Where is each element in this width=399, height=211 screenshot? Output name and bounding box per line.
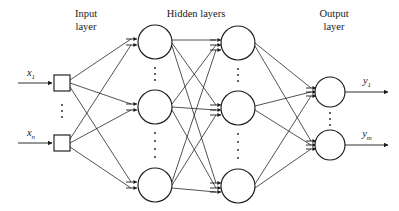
output-layer-title-line2: layer [324, 21, 345, 32]
hidden2-node-2[interactable] [221, 91, 255, 125]
hidden2-ellipsis-lower [237, 133, 239, 159]
output-layer-title-line1: Output [319, 8, 348, 19]
output-node-m[interactable] [315, 130, 345, 160]
hidden1-ellipsis-lower [154, 132, 156, 158]
hidden1-node-3[interactable] [138, 168, 172, 202]
arrowheads-output [306, 88, 316, 149]
input-layer-ellipsis [61, 104, 63, 118]
output-layer-ellipsis [329, 112, 331, 126]
input-layer-title-line1: Input [75, 8, 97, 19]
output-label-ym: ym [361, 128, 372, 142]
input-node-n[interactable] [54, 135, 70, 151]
hidden1-node-1[interactable] [138, 25, 172, 59]
output-label-y1: y1 [362, 75, 371, 89]
input-label-x1: x1 [26, 67, 35, 81]
arrowheads-hidden1 [126, 39, 137, 188]
output-node-1[interactable] [315, 77, 345, 107]
hidden1-ellipsis-upper [154, 67, 156, 81]
network-canvas: Input layer Hidden layers Output layer x… [0, 0, 399, 211]
hidden2-node-1[interactable] [221, 26, 255, 60]
edges-hidden2-to-output [255, 43, 311, 188]
hidden1-node-2[interactable] [138, 90, 172, 124]
edges-input-to-hidden1 [70, 39, 131, 188]
input-node-1[interactable] [54, 75, 70, 91]
edges-hidden1-to-hidden2 [172, 40, 216, 192]
hidden2-node-3[interactable] [221, 169, 255, 203]
neural-network-diagram: Input layer Hidden layers Output layer x… [0, 0, 399, 211]
hidden2-ellipsis-upper [237, 68, 239, 82]
input-label-xn: xn [26, 127, 36, 141]
input-layer-title-line2: layer [76, 21, 97, 32]
hidden-layers-title: Hidden layers [167, 8, 226, 19]
